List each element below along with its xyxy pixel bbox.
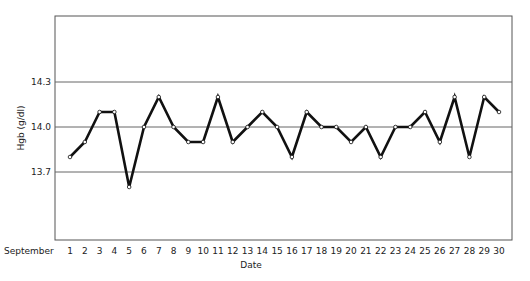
x-tick-label: 16: [286, 246, 298, 256]
data-point: [394, 125, 398, 129]
data-point: [172, 125, 176, 129]
x-tick-label: 22: [375, 246, 386, 256]
data-point: [142, 125, 146, 129]
x-tick-label: 21: [360, 246, 371, 256]
data-point: [482, 95, 486, 99]
x-tick-labels: 1234567891011121314151617181920212223242…: [67, 246, 505, 256]
data-point: [468, 155, 472, 159]
data-point: [453, 95, 457, 99]
data-point: [275, 125, 279, 129]
x-tick-label: 5: [126, 246, 132, 256]
data-point: [201, 140, 205, 144]
data-point: [113, 110, 117, 114]
hgb-series-line: [70, 97, 499, 187]
x-prefix-label: September: [4, 246, 54, 256]
data-point: [290, 155, 294, 159]
data-point: [305, 110, 309, 114]
x-tick-label: 1: [67, 246, 73, 256]
data-point: [216, 95, 220, 99]
y-tick-label: 14.0: [31, 122, 51, 132]
x-tick-label: 7: [156, 246, 162, 256]
data-point: [379, 155, 383, 159]
data-point: [320, 125, 324, 129]
y-tick-labels: 14.314.013.7: [31, 77, 51, 177]
x-tick-label: 20: [345, 246, 357, 256]
data-point: [246, 125, 250, 129]
x-tick-label: 26: [434, 246, 446, 256]
x-tick-label: 13: [242, 246, 253, 256]
x-tick-label: 2: [82, 246, 88, 256]
data-point: [408, 125, 412, 129]
x-tick-label: 4: [112, 246, 118, 256]
data-point: [364, 125, 368, 129]
x-tick-label: 23: [390, 246, 401, 256]
data-point: [187, 140, 191, 144]
x-tick-label: 3: [97, 246, 103, 256]
data-point: [231, 140, 235, 144]
x-tick-label: 15: [271, 246, 282, 256]
data-point: [127, 185, 131, 189]
x-tick-label: 28: [464, 246, 476, 256]
x-tick-label: 29: [478, 246, 490, 256]
data-point: [334, 125, 338, 129]
x-tick-label: 24: [405, 246, 417, 256]
data-point: [68, 155, 72, 159]
data-point: [497, 110, 501, 114]
x-tick-label: 8: [171, 246, 177, 256]
x-axis-label: Date: [240, 260, 262, 270]
x-tick-label: 25: [419, 246, 430, 256]
data-point: [349, 140, 353, 144]
x-tick-label: 14: [257, 246, 269, 256]
x-tick-label: 17: [301, 246, 312, 256]
hgb-line-chart: 14.314.013.7 Hgb (g/dl) September 123456…: [0, 0, 530, 281]
y-tick-label: 14.3: [31, 77, 51, 87]
y-tick-label: 13.7: [31, 167, 51, 177]
data-point: [98, 110, 102, 114]
data-point: [423, 110, 427, 114]
x-tick-label: 10: [197, 246, 209, 256]
x-tick-label: 27: [449, 246, 460, 256]
x-tick-label: 18: [316, 246, 328, 256]
data-point: [83, 140, 87, 144]
x-tick-label: 19: [331, 246, 343, 256]
x-tick-label: 12: [227, 246, 238, 256]
data-point: [438, 140, 442, 144]
x-tick-label: 30: [493, 246, 505, 256]
y-axis-label: Hgb (g/dl): [16, 105, 26, 150]
x-tick-label: 11: [212, 246, 223, 256]
x-tick-label: 9: [185, 246, 191, 256]
data-point: [261, 110, 265, 114]
data-point: [157, 95, 161, 99]
x-tick-label: 6: [141, 246, 147, 256]
